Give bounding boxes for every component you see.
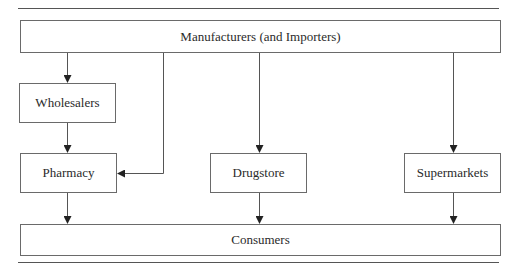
manufacturers-label: Manufacturers (and Importers) bbox=[180, 29, 340, 45]
pharmacy-node: Pharmacy bbox=[20, 153, 117, 193]
consumers-node: Consumers bbox=[20, 224, 501, 256]
supermarkets-node: Supermarkets bbox=[404, 153, 501, 193]
manufacturers-node: Manufacturers (and Importers) bbox=[20, 20, 501, 53]
supermarkets-label: Supermarkets bbox=[417, 165, 488, 181]
pharmacy-label: Pharmacy bbox=[43, 165, 95, 181]
wholesalers-label: Wholesalers bbox=[35, 95, 99, 111]
consumers-label: Consumers bbox=[231, 232, 290, 248]
wholesalers-node: Wholesalers bbox=[19, 83, 116, 123]
drugstore-node: Drugstore bbox=[210, 153, 307, 193]
drugstore-label: Drugstore bbox=[233, 165, 285, 181]
